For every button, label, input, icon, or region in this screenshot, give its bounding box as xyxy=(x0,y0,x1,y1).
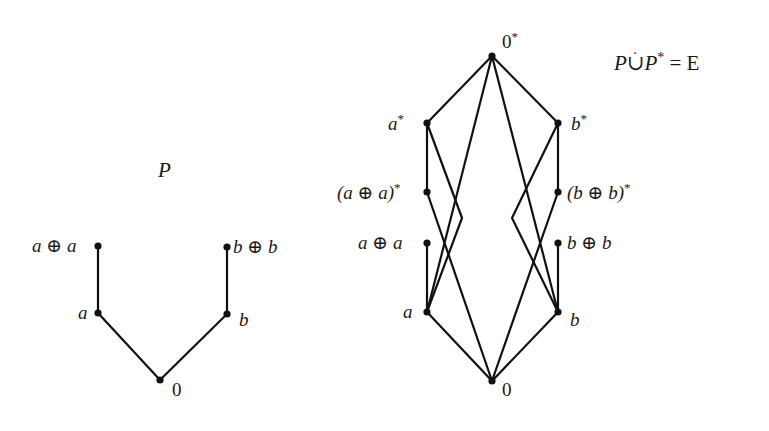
equation-label: P∪·P* = E xyxy=(614,51,699,74)
label-bb: b ⊕ b xyxy=(233,237,277,256)
label-as: a* xyxy=(388,112,404,133)
label-aa-right: a ⊕ a xyxy=(358,233,402,252)
label-aas: (a ⊕ a)* xyxy=(337,181,401,202)
eq-dot-cup: ∪· xyxy=(627,53,645,74)
label-top: 0* xyxy=(502,30,518,51)
edge-top-b xyxy=(492,56,558,312)
eq-dot: · xyxy=(633,47,638,61)
node-top xyxy=(488,52,495,59)
eq-P2: P xyxy=(644,51,657,75)
label-as-star: * xyxy=(398,111,405,126)
edge-0-b xyxy=(160,314,227,380)
node-aa xyxy=(94,242,101,249)
label-bbs-base: (b ⊕ b) xyxy=(567,182,624,203)
edge-a-0 xyxy=(98,313,160,380)
label-bbs-star: * xyxy=(624,180,631,195)
label-aas-base: (a ⊕ a) xyxy=(337,182,394,203)
node-b-right xyxy=(554,308,561,315)
eq-star: * xyxy=(657,50,664,65)
edge-top-as xyxy=(427,56,492,123)
label-b: b xyxy=(239,310,249,329)
node-as xyxy=(423,119,430,126)
label-aa: a ⊕ a xyxy=(32,236,76,255)
node-zero-right xyxy=(488,377,495,384)
node-a xyxy=(94,309,101,316)
eq-rest: = E xyxy=(670,51,700,75)
label-bbs: (b ⊕ b)* xyxy=(567,181,631,202)
label-bs-base: b xyxy=(571,113,581,134)
label-top-star: * xyxy=(512,29,519,44)
label-a: a xyxy=(78,303,88,322)
node-bb-right xyxy=(554,239,561,246)
node-bbs xyxy=(554,188,561,195)
label-bb-right: b ⊕ b xyxy=(567,233,611,252)
label-bs-star: * xyxy=(581,111,588,126)
poset-title-P: P xyxy=(158,160,171,181)
edge-top-a xyxy=(427,56,492,312)
node-bs xyxy=(554,119,561,126)
label-top-base: 0 xyxy=(502,31,512,52)
node-bb xyxy=(223,243,230,250)
label-a-right: a xyxy=(403,302,413,321)
edge-b-0-right xyxy=(492,312,558,381)
node-aas xyxy=(423,188,430,195)
label-zero-right: 0 xyxy=(502,380,512,399)
edge-top-bs xyxy=(492,56,558,123)
node-b xyxy=(223,310,230,317)
edge-bbs-0 xyxy=(492,192,558,381)
eq-P1: P xyxy=(614,51,627,75)
node-aa-right xyxy=(423,239,430,246)
edge-as-a xyxy=(427,123,462,312)
label-b-right: b xyxy=(570,310,580,329)
node-zero xyxy=(156,376,163,383)
label-bs: b* xyxy=(571,112,587,133)
label-aas-star: * xyxy=(394,180,401,195)
label-zero: 0 xyxy=(172,380,182,399)
node-a-right xyxy=(423,308,430,315)
edge-a-0-right xyxy=(427,312,492,381)
label-as-base: a xyxy=(388,113,398,134)
